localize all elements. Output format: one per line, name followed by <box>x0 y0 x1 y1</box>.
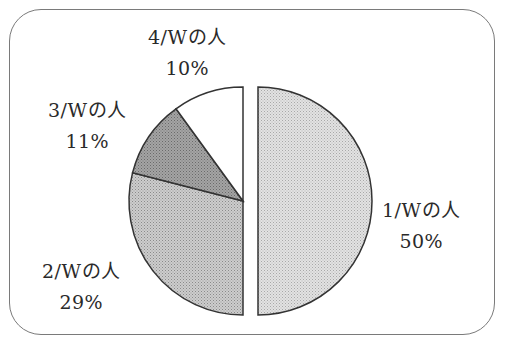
label-slice-4-pct: 10% <box>148 53 227 84</box>
label-slice-4-name: 4/Wの人 <box>148 22 227 53</box>
pie-slice-1 <box>258 87 372 315</box>
label-slice-4: 4/Wの人 10% <box>148 22 227 84</box>
label-slice-1-pct: 50% <box>382 226 461 257</box>
label-slice-3: 3/Wの人 11% <box>48 95 127 157</box>
label-slice-1: 1/Wの人 50% <box>382 195 461 257</box>
label-slice-2: 2/Wの人 29% <box>42 256 121 318</box>
label-slice-2-pct: 29% <box>42 287 121 318</box>
label-slice-2-name: 2/Wの人 <box>42 256 121 287</box>
label-slice-3-pct: 11% <box>48 126 127 157</box>
label-slice-3-name: 3/Wの人 <box>48 95 127 126</box>
label-slice-1-name: 1/Wの人 <box>382 195 461 226</box>
